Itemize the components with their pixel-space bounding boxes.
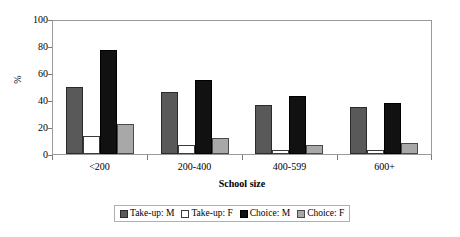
legend-label: Choice: F <box>307 208 344 219</box>
plot-area <box>52 20 432 155</box>
bar <box>178 145 195 154</box>
bar-group <box>53 21 148 154</box>
legend-item: Take-up: M <box>120 208 174 219</box>
bar <box>66 87 83 155</box>
bar <box>401 143 418 154</box>
bar <box>306 145 323 154</box>
bar <box>350 107 367 154</box>
bar <box>255 105 272 154</box>
x-axis-tick-marks <box>52 155 432 160</box>
y-axis-tick-label: 100 <box>22 15 48 25</box>
x-axis-tick-mark <box>147 155 148 160</box>
bar <box>384 103 401 154</box>
x-axis-tick-mark <box>242 155 243 160</box>
x-axis-tick-label: 200-400 <box>147 161 242 173</box>
bar <box>161 92 178 154</box>
bars-container <box>53 21 431 154</box>
bar <box>195 80 212 154</box>
legend-item: Choice: M <box>240 208 290 219</box>
bar <box>367 150 384 154</box>
y-axis-tick-label: 60 <box>22 69 48 79</box>
y-axis-tick-label: 80 <box>22 42 48 52</box>
legend: Take-up: MTake-up: FChoice: MChoice: F <box>114 205 350 222</box>
x-axis-tick-mark <box>431 155 432 160</box>
legend-label: Take-up: M <box>130 208 174 219</box>
y-axis-tick-label: 0 <box>22 150 48 160</box>
x-axis-tick-mark <box>337 155 338 160</box>
legend-swatch-icon <box>120 210 128 218</box>
bar <box>117 124 134 154</box>
y-axis-tick-label: 20 <box>22 123 48 133</box>
legend-item: Take-up: F <box>181 208 232 219</box>
bar <box>83 136 100 154</box>
x-axis-title: School size <box>52 178 432 189</box>
legend-swatch-icon <box>240 210 248 218</box>
x-axis-tick-labels: <200200-400400-599600+ <box>52 161 432 173</box>
x-axis-tick-label: 600+ <box>337 161 432 173</box>
bar-chart: % 020406080100 <200200-400400-599600+ Sc… <box>0 0 460 237</box>
x-axis-tick-mark <box>52 155 53 160</box>
x-axis-tick-label: <200 <box>52 161 147 173</box>
bar-group <box>337 21 432 154</box>
legend-item: Choice: F <box>297 208 344 219</box>
x-axis-tick-label: 400-599 <box>242 161 337 173</box>
bar-group <box>148 21 243 154</box>
bar <box>289 96 306 154</box>
legend-swatch-icon <box>181 210 189 218</box>
legend-label: Choice: M <box>250 208 290 219</box>
y-axis-title: % <box>12 68 23 92</box>
y-axis-tick-label: 40 <box>22 96 48 106</box>
legend-swatch-icon <box>297 210 305 218</box>
bar <box>100 50 117 154</box>
bar-group <box>242 21 337 154</box>
bar <box>212 138 229 154</box>
y-axis-tick-labels: 020406080100 <box>22 20 48 155</box>
legend-label: Take-up: F <box>191 208 232 219</box>
bar <box>272 150 289 154</box>
